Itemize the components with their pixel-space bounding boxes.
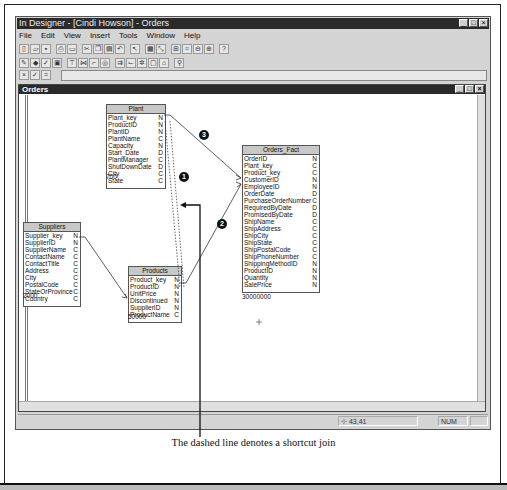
- join-plant-orders[interactable]: [164, 115, 241, 178]
- callout-badge-3: 3: [199, 130, 209, 140]
- callout-badge-1: 1: [179, 172, 189, 182]
- join-suppliers-products[interactable]: [79, 237, 127, 298]
- arrowhead-icon: [180, 202, 186, 208]
- crosshair-cursor-icon: [256, 319, 262, 325]
- callout-badge-2: 2: [217, 219, 227, 229]
- crows-foot-icon: [236, 182, 241, 187]
- annotation-arrow: [182, 205, 200, 437]
- figure-caption: The dashed line denotes a shortcut join: [0, 437, 507, 448]
- page-bottom-bar: [0, 483, 507, 490]
- join-products-orders[interactable]: [180, 184, 241, 283]
- joins-overlay: [0, 0, 507, 490]
